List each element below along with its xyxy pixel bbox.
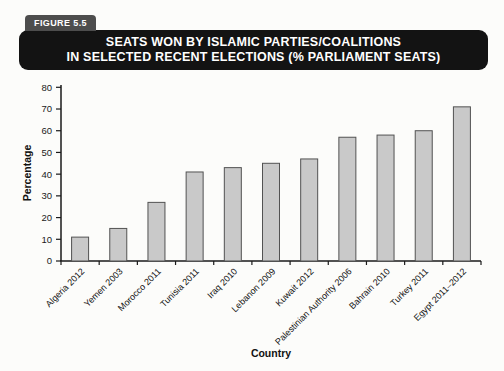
x-category-label: Bahrain 2010 — [347, 266, 392, 311]
y-tick-label: 20 — [41, 212, 52, 223]
y-tick-label: 80 — [41, 82, 52, 93]
figure-label: FIGURE 5.5 — [34, 18, 87, 28]
bar — [186, 172, 203, 261]
figure-label-tab: FIGURE 5.5 — [25, 15, 96, 31]
x-category-label: Iraq 2010 — [205, 266, 239, 300]
y-tick-label: 0 — [47, 255, 52, 266]
chart-title-box: SEATS WON BY ISLAMIC PARTIES/COALITIONS … — [19, 30, 488, 70]
x-category-label: Kuwait 2012 — [273, 266, 315, 308]
bar — [148, 202, 165, 261]
y-axis-title: Percentage — [21, 145, 33, 202]
y-tick-label: 10 — [41, 234, 52, 245]
y-tick-label: 50 — [41, 147, 52, 158]
y-tick-label: 70 — [41, 103, 52, 114]
x-axis-title: Country — [251, 347, 291, 359]
x-category-label: Palestinian Authority 2006 — [273, 266, 354, 347]
bar — [263, 163, 280, 261]
bar — [453, 107, 470, 261]
bar — [72, 237, 89, 261]
x-category-label: Tunisia 2011 — [158, 266, 201, 309]
bar — [339, 137, 356, 261]
bar — [301, 159, 318, 261]
y-tick-label: 40 — [41, 169, 52, 180]
bar — [110, 228, 127, 261]
bar — [224, 168, 241, 261]
x-category-label: Turkey 2011 — [388, 266, 430, 308]
chart-title-line1: SEATS WON BY ISLAMIC PARTIES/COALITIONS — [106, 35, 401, 50]
chart-title-line2: IN SELECTED RECENT ELECTIONS (% PARLIAME… — [67, 50, 441, 65]
bar — [415, 131, 432, 261]
x-category-label: Algeria 2012 — [44, 266, 87, 309]
bar — [377, 135, 394, 261]
y-tick-label: 30 — [41, 190, 52, 201]
y-tick-label: 60 — [41, 125, 52, 136]
